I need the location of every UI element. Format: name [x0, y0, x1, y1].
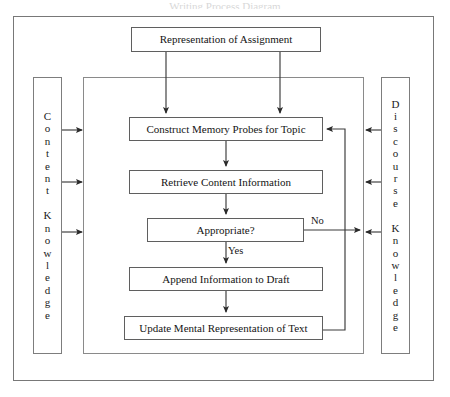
node-construct-memory-probes[interactable]: Construct Memory Probes for Topic — [129, 117, 323, 141]
flowchart-canvas: Writing Process Diagram C o n t e n t K … — [0, 0, 450, 397]
content-knowledge-label: C o n t e n t K n o w l e d g e — [44, 110, 52, 321]
node-appropriate-decision[interactable]: Appropriate? — [147, 218, 304, 242]
edge-label-yes: Yes — [228, 245, 243, 256]
node-representation-of-assignment[interactable]: Representation of Assignment — [131, 27, 321, 52]
node-retrieve-content-information[interactable]: Retrieve Content Information — [129, 170, 323, 194]
edge-label-no: No — [311, 215, 324, 226]
node-append-information-to-draft[interactable]: Append Information to Draft — [129, 267, 323, 291]
discourse-knowledge-panel: D i s c o u r s e K n o w l e d g e — [381, 77, 410, 354]
node-update-mental-representation[interactable]: Update Mental Representation of Text — [124, 316, 323, 340]
clipped-title-artifact: Writing Process Diagram — [150, 0, 300, 9]
content-knowledge-panel: C o n t e n t K n o w l e d g e — [33, 77, 62, 354]
discourse-knowledge-label: D i s c o u r s e K n o w l e d g e — [392, 98, 400, 334]
